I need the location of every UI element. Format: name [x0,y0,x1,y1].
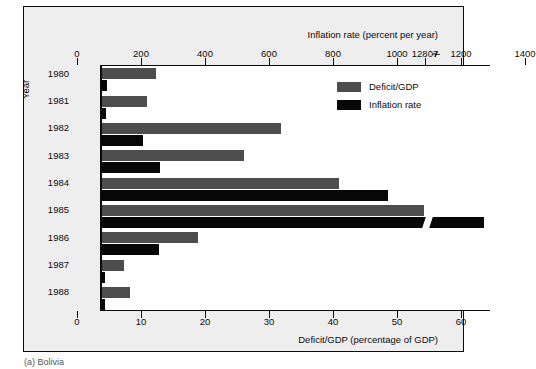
top-tick-mark-12807 [425,58,426,65]
bottom-tick-mark-40 [333,311,334,318]
bar-inflation-1987 [102,272,105,283]
bar-inflation-1986 [102,244,159,255]
bar-deficit-1982 [102,123,281,134]
bottom-axis-title: Deficit/GDP (percentage of GDP) [298,334,438,345]
y-axis-title: Year [20,80,31,99]
bar-deficit-1984 [102,178,339,189]
year-tick-label-1988: 1988 [48,286,69,297]
top-tick-mark-1000 [397,58,398,65]
bar-inflation-1983 [102,162,160,173]
figure-caption: (a) Bolivia [24,357,64,367]
year-tick-label-1980: 1980 [48,67,69,78]
axis-break-icon: ≁ [431,47,441,62]
year-tick-label-1981: 1981 [48,95,69,106]
bottom-tick-mark-50 [397,311,398,318]
bottom-tick-mark-30 [269,311,270,318]
bar-inflation-1984 [102,190,388,201]
year-tick-label-1982: 1982 [48,122,69,133]
top-tick-mark-0 [77,58,78,65]
top-axis-title: Inflation rate (percent per year) [308,29,438,40]
plot-area [100,65,490,311]
bar-deficit-1985 [102,205,424,216]
legend-label-inflation: Inflation rate [369,99,421,110]
bottom-tick-mark-10 [141,311,142,318]
top-tick-mark-200 [141,58,142,65]
bar-deficit-1988 [102,287,130,298]
legend-item-deficit: Deficit/GDP [337,81,421,92]
top-tick-mark-1200 [461,58,462,65]
top-tick-mark-600 [269,58,270,65]
bar-inflation-1980 [102,80,107,91]
bar-deficit-1987 [102,260,124,271]
bottom-tick-mark-60 [461,311,462,318]
year-tick-label-1984: 1984 [48,177,69,188]
legend-item-inflation: Inflation rate [337,99,421,110]
year-tick-label-1987: 1987 [48,259,69,270]
bottom-tick-mark-0 [77,311,78,318]
bar-deficit-1980 [102,68,156,79]
bottom-tick-mark-20 [205,311,206,318]
legend-swatch-deficit [337,82,361,92]
year-tick-label-1986: 1986 [48,231,69,242]
chart-panel: Inflation rate (percent per year) Defici… [23,6,464,352]
legend: Deficit/GDP Inflation rate [337,81,421,117]
top-tick-mark-400 [205,58,206,65]
bar-deficit-1983 [102,150,244,161]
bar-inflation-1981 [102,108,106,119]
bar-inflation-1982 [102,135,143,146]
top-tick-mark-800 [333,58,334,65]
year-tick-label-1985: 1985 [48,204,69,215]
bar-deficit-1986 [102,232,198,243]
bar-inflation-1988 [102,299,105,310]
year-tick-label-1983: 1983 [48,149,69,160]
bar-deficit-1981 [102,96,147,107]
legend-swatch-inflation [337,100,361,110]
legend-label-deficit: Deficit/GDP [369,81,419,92]
top-tick-mark-1400 [525,58,526,65]
